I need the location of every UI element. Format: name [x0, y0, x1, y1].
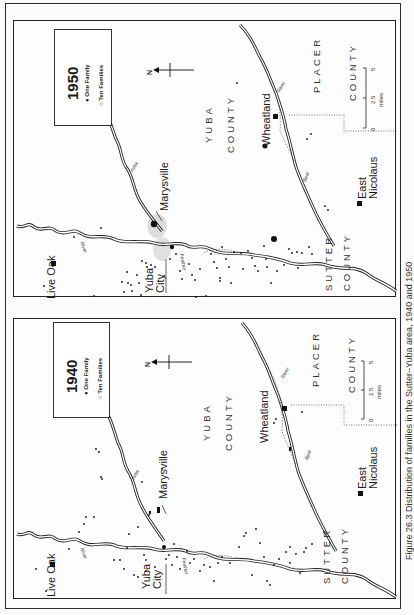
town-wheatland: Wheatland: [261, 93, 272, 146]
bear-river-outer: [242, 323, 336, 551]
scale-tick-2-5: 2.5: [368, 388, 374, 396]
legend-year: 1950: [65, 67, 80, 100]
scale-tick-0: 0: [368, 419, 374, 422]
north-arrow: [153, 63, 194, 77]
county-sutter-line2: COUNTY: [342, 233, 352, 291]
east-nicolaus-marker: [357, 201, 362, 206]
map-1950: 1950 ● One Family ○ Ten Families N Live …: [13, 20, 396, 297]
county-sutter-line1: SUTTER: [322, 528, 332, 584]
legend-ten-families: ○ Ten Families: [98, 65, 104, 106]
town-wheatland: Wheatland: [259, 390, 270, 443]
county-placer-line1: PLACER: [311, 331, 321, 387]
town-yuba-city-line2: City: [155, 274, 166, 293]
scale-unit: miles: [378, 93, 384, 107]
county-sutter-line1: SUTTER: [324, 235, 334, 291]
scale-bar: [363, 68, 366, 128]
county-sutter-line2: COUNTY: [340, 526, 350, 584]
legend-year: 1940: [64, 360, 79, 393]
legend-one-family: ● One Family: [84, 64, 90, 102]
wheatland-marker: [282, 406, 287, 411]
county-yuba-line1: YUBA: [202, 403, 212, 441]
scale-unit: miles: [376, 385, 382, 399]
north-arrow: [151, 355, 192, 369]
north-label: N: [146, 70, 153, 75]
county-placer-line1: PLACER: [312, 37, 322, 93]
legend-one-family: ● One Family: [83, 357, 89, 395]
east-nicolaus-marker: [358, 491, 363, 496]
urban-area-yuba-city: [153, 237, 171, 261]
county-yuba-line2: COUNTY: [224, 393, 234, 451]
map-1940: 1940 ● One Family ○ Ten Families N Live …: [13, 318, 396, 599]
county-placer-line2: COUNTY: [347, 335, 357, 393]
town-live-oak: Live Oak: [46, 256, 57, 299]
scale-tick-0: 0: [370, 128, 376, 131]
county-yuba-line1: YUBA: [204, 105, 214, 143]
scale-bar: [361, 361, 364, 419]
yuba-city-cluster: [162, 545, 166, 549]
marysville-cluster: [151, 221, 157, 227]
north-label: N: [144, 362, 151, 367]
legend-ten-families: ○ Ten Families: [97, 358, 103, 399]
county-yuba-line2: COUNTY: [226, 95, 236, 153]
legend-1950: 1950 ● One Family ○ Ten Families: [54, 29, 112, 126]
scale-tick-5: 5: [368, 361, 374, 364]
town-east-nicolaus-line2: Nicolaus: [368, 447, 379, 489]
town-yuba-city-line2: City: [152, 570, 163, 589]
placer-county-boundary: [291, 405, 397, 425]
legend-1940: 1940 ● One Family ○ Ten Families: [53, 322, 110, 418]
placer-county-boundary: [289, 115, 397, 131]
scanned-page: 1950 ● One Family ○ Ten Families N Live …: [0, 0, 414, 615]
town-east-nicolaus-line2: Nicolaus: [368, 157, 379, 199]
town-live-oak: Live Oak: [46, 554, 57, 597]
figure-caption: Figure 26.3 Distribution of families in …: [405, 262, 414, 560]
scale-tick-2-5: 2.5: [370, 96, 376, 104]
town-marysville: Marysville: [159, 162, 170, 211]
feather-river-outer: [17, 225, 396, 291]
county-placer-line2: COUNTY: [348, 43, 358, 101]
town-marysville: Marysville: [158, 450, 169, 499]
scale-tick-5: 5: [370, 68, 376, 71]
wheatland-marker: [273, 114, 278, 119]
